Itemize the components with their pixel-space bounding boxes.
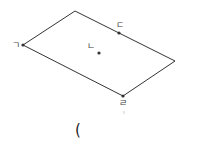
point-giyeok-dot xyxy=(21,43,24,46)
point-giyeok-label: ㄱ xyxy=(12,40,20,50)
point-nieun-dot xyxy=(97,51,100,54)
answer-open-paren: ( xyxy=(75,121,81,139)
point-rieul: ㄹ xyxy=(119,94,127,108)
point-nieun-label: ㄴ xyxy=(87,41,95,51)
point-digeut-dot xyxy=(117,31,120,34)
point-digeut-label: ㄷ xyxy=(116,20,124,30)
point-nieun: ㄴ xyxy=(87,41,101,55)
point-giyeok: ㄱ xyxy=(12,40,25,50)
point-rieul-label: ㄹ xyxy=(119,98,127,108)
parallelogram-diagram: ㄱ ㄴ ㄷ ㄹ ( xyxy=(0,0,223,144)
